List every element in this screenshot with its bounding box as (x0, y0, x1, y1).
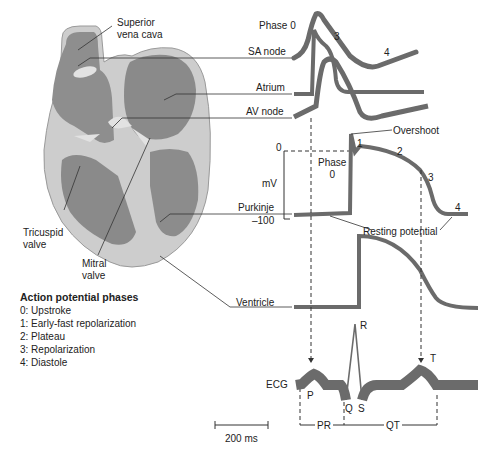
legend-item: 4: Diastole (20, 356, 138, 369)
resting-potential-label: Resting potential (363, 226, 438, 238)
ecg-trace (296, 324, 478, 425)
sa-phase4-label: 4 (384, 47, 390, 59)
ecg-q-label: Q (345, 403, 353, 415)
y-axis-minus100: –100 (252, 215, 274, 227)
sa-phase0-label: Phase 0 (259, 20, 296, 32)
label-sa-node: SA node (248, 46, 286, 58)
label-ventricle: Ventricle (236, 297, 274, 309)
legend-item: 3: Repolarization (20, 343, 138, 356)
scale-bar (215, 421, 268, 429)
purkinje-phase2-label: 2 (397, 146, 403, 158)
ventricle-trace (294, 236, 478, 308)
pr-interval-label: PR (315, 420, 333, 432)
legend-item: 1: Early-fast repolarization (20, 317, 138, 330)
label-tricuspid-valve: Tricuspid valve (23, 227, 63, 251)
label-mitral-valve: Mitral valve (82, 258, 106, 282)
label-purkinje: Purkinje (238, 202, 274, 214)
sa-phase3-label: 3 (334, 31, 340, 43)
label-av-node: AV node (246, 106, 284, 118)
heart-illustration (44, 26, 211, 267)
y-axis-unit: mV (262, 178, 277, 190)
legend-item: 2: Plateau (20, 330, 138, 343)
ecg-p-label: P (307, 390, 314, 402)
overshoot-label: Overshoot (393, 125, 439, 137)
scale-bar-label: 200 ms (225, 433, 258, 445)
qt-interval-label: QT (384, 420, 402, 432)
phase-legend: Action potential phases 0: Upstroke 1: E… (20, 291, 138, 369)
ecg-t-label: T (430, 353, 436, 365)
purkinje-phase3-label: 3 (428, 172, 434, 184)
label-superior-vena-cava: Superior vena cava (117, 17, 163, 41)
purkinje-phase0-label: Phase 0 (318, 157, 346, 181)
legend-item: 0: Upstroke (20, 304, 138, 317)
ecg-label: ECG (266, 379, 288, 391)
purkinje-trace (284, 130, 468, 230)
ecg-s-label: S (358, 403, 365, 415)
legend-title: Action potential phases (20, 291, 138, 304)
y-axis-0: 0 (276, 142, 282, 154)
purkinje-phase1-label: 1 (357, 138, 363, 150)
ecg-r-label: R (360, 320, 367, 332)
label-atrium: Atrium (256, 82, 285, 94)
purkinje-phase4-label: 4 (455, 202, 461, 214)
